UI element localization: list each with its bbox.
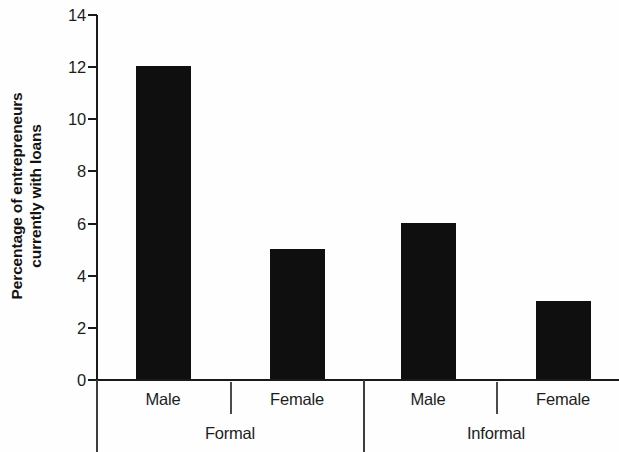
y-axis-tick-label: 14 (46, 6, 86, 25)
y-axis-title-line2: currently with loans (26, 93, 45, 300)
y-axis-tick-mark (88, 14, 97, 16)
y-axis-tick-label: 0 (46, 371, 86, 390)
y-axis-tick-mark (88, 327, 97, 329)
y-axis-tick-mark (88, 275, 97, 277)
x-axis-category-label: Male (103, 384, 223, 414)
x-axis-category-label: Male (368, 384, 488, 414)
y-axis-title-line1: Percentage of entrepreneurs (7, 93, 24, 300)
bar (536, 301, 591, 379)
group-separator (363, 380, 365, 452)
y-axis-tick-mark (88, 170, 97, 172)
x-axis-label-band: MaleFemaleMaleFemaleFormalInformal (97, 380, 619, 452)
y-axis-tick-label: 6 (46, 214, 86, 233)
category-separator (496, 382, 498, 414)
y-axis-tick-label: 4 (46, 266, 86, 285)
y-axis-tick-label: 12 (46, 58, 86, 77)
y-axis-line (96, 15, 98, 380)
y-axis-tick-mark (88, 66, 97, 68)
y-axis-title: Percentage of entrepreneurs currently wi… (0, 0, 52, 392)
plot-area (97, 15, 619, 380)
y-axis-tick-label: 10 (46, 110, 86, 129)
bar (136, 66, 191, 379)
y-axis-tick-label: 2 (46, 318, 86, 337)
category-separator (230, 382, 232, 414)
bar (401, 223, 456, 379)
x-axis-group-label: Informal (406, 418, 586, 448)
label-band-left-edge (96, 380, 98, 452)
y-axis-tick-mark (88, 223, 97, 225)
y-axis-tick-labels: 14121086420 (48, 0, 86, 452)
bar-chart-figure: Percentage of entrepreneurs currently wi… (0, 0, 619, 452)
x-axis-category-label: Female (237, 384, 357, 414)
x-axis-group-label: Formal (140, 418, 320, 448)
bar (270, 249, 325, 379)
y-axis-tick-mark (88, 118, 97, 120)
y-axis-tick-label: 8 (46, 162, 86, 181)
x-axis-category-label: Female (503, 384, 619, 414)
